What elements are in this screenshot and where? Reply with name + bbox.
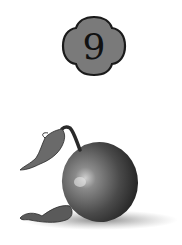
- fruit-highlight: [74, 177, 86, 187]
- badge-number: 9: [60, 14, 128, 78]
- fruit-illustration: [0, 100, 182, 245]
- lower-leaf: [20, 206, 72, 223]
